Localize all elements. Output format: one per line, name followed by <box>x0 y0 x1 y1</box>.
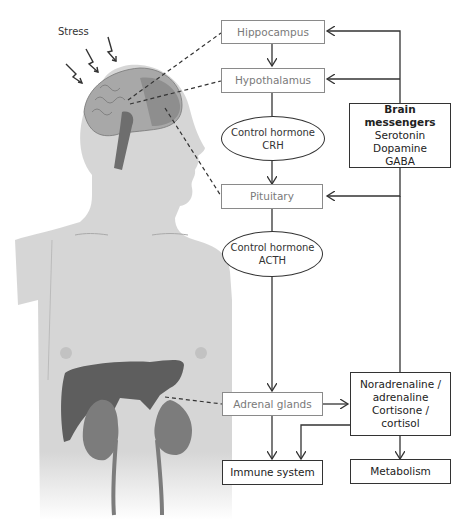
hormone-line-1: Noradrenaline / <box>360 378 441 391</box>
stress-hormones-node: Noradrenaline / adrenaline Cortisone / c… <box>350 372 451 436</box>
adrenal-glands-node: Adrenal glands <box>222 392 323 416</box>
messenger-serotonin: Serotonin <box>375 129 425 142</box>
messenger-gaba: GABA <box>385 155 415 168</box>
hormone-line-3: Cortisone / <box>372 404 429 417</box>
crh-node: Control hormone CRH <box>221 116 325 161</box>
acth-line1: Control hormone <box>230 241 314 254</box>
messengers-title: Brain messengers <box>350 103 450 129</box>
brain-messengers-node: Brain messengers Serotonin Dopamine GABA <box>349 103 451 168</box>
acth-node: Control hormone ACTH <box>222 231 323 277</box>
immune-system-node: Immune system <box>222 460 323 485</box>
hippocampus-node: Hippocampus <box>221 20 325 44</box>
hormone-line-2: adrenaline <box>373 391 429 404</box>
pituitary-node: Pituitary <box>221 184 323 209</box>
metabolism-node: Metabolism <box>350 459 451 484</box>
stress-diagram: Stress Hippocampus Hypothalamus Control … <box>0 0 475 525</box>
crh-line2: CRH <box>262 139 283 152</box>
hypothalamus-node: Hypothalamus <box>221 68 325 93</box>
crh-line1: Control hormone <box>231 126 315 139</box>
acth-line2: ACTH <box>259 254 286 267</box>
messenger-dopamine: Dopamine <box>373 142 427 155</box>
hormone-line-4: cortisol <box>381 417 419 430</box>
stress-label: Stress <box>58 26 89 37</box>
